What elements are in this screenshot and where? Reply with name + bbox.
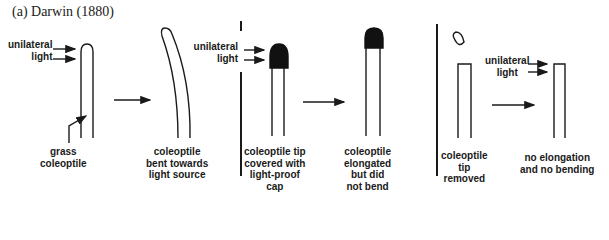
- label-line: tip: [441, 162, 488, 174]
- label-line: unilateral: [8, 39, 52, 51]
- light-label: unilateral light: [192, 41, 238, 64]
- label-line: light: [485, 67, 529, 79]
- label-line: unilateral: [192, 41, 238, 53]
- light-proof-cap-icon: [270, 44, 288, 68]
- label-line: cap: [244, 181, 306, 193]
- label-line: light-proof: [244, 169, 306, 181]
- label-line: coleoptile: [40, 158, 87, 170]
- elongated-coleoptile-label: coleoptile elongated but did not bend: [344, 146, 391, 192]
- label-line: and no bending: [520, 164, 594, 176]
- label-line: coleoptile: [441, 150, 488, 162]
- label-line: no elongation: [520, 152, 594, 164]
- label-line: coleoptile: [344, 146, 391, 158]
- label-line: coleoptile tip: [244, 146, 306, 158]
- label-line: removed: [441, 173, 488, 185]
- decapitated-coleoptile-shape: [554, 64, 565, 138]
- label-line: light: [8, 51, 52, 63]
- label-line: coleoptile: [146, 146, 208, 158]
- bent-coleoptile-shape: [161, 28, 190, 138]
- capped-coleoptile-label: coleoptile tip covered with light-proof …: [244, 146, 306, 192]
- grass-coleoptile-shape: [81, 44, 93, 138]
- label-line: not bend: [344, 181, 391, 193]
- decapitated-coleoptile-shape: [458, 64, 471, 138]
- grass-coleoptile-label: grass coleoptile: [40, 146, 87, 169]
- label-line: light source: [146, 169, 208, 181]
- removed-tip-shape: [453, 32, 464, 45]
- no-elongation-label: no elongation and no bending: [520, 152, 594, 175]
- label-line: covered with: [244, 158, 306, 170]
- label-line: unilateral: [485, 55, 529, 67]
- label-line: but did: [344, 169, 391, 181]
- light-proof-cap-icon: [365, 28, 383, 48]
- tip-removed-label: coleoptile tip removed: [441, 150, 488, 185]
- label-line: grass: [40, 146, 87, 158]
- label-line: light: [192, 53, 238, 65]
- bent-coleoptile-label: coleoptile bent towards light source: [146, 146, 208, 181]
- light-label: unilateral light: [8, 39, 52, 62]
- label-line: bent towards: [146, 158, 208, 170]
- label-line: elongated: [344, 158, 391, 170]
- pointer-arrow-icon: [69, 116, 86, 143]
- light-label: unilateral light: [485, 55, 529, 78]
